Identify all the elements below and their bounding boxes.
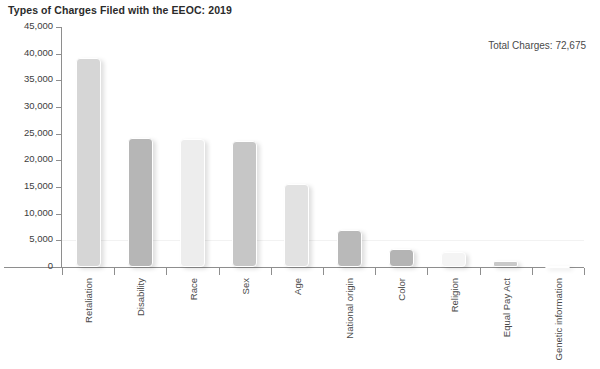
x-label-sex: Sex <box>241 278 252 294</box>
x-tick-mark <box>271 268 272 275</box>
x-label-disability: Disability <box>136 278 147 316</box>
y-tick-label: 15,000 <box>24 180 53 191</box>
bar-sex[interactable] <box>232 141 257 267</box>
y-tick-mark <box>56 160 62 161</box>
x-label-genetic-information: Genetic information <box>554 278 565 362</box>
bar-race[interactable] <box>180 139 205 267</box>
x-label-age: Age <box>293 278 304 295</box>
x-label-equal-pay-act: Equal Pay Act <box>502 278 513 337</box>
bar-color[interactable] <box>389 249 414 267</box>
y-tick-mark <box>56 54 62 55</box>
y-tick-label: 45,000 <box>24 20 53 31</box>
x-label-retaliation: Retaliation <box>84 278 95 323</box>
y-tick-mark <box>56 134 62 135</box>
x-tick-mark <box>166 268 167 275</box>
y-tick-label: 40,000 <box>24 47 53 58</box>
y-tick-label: 0 <box>48 260 53 271</box>
y-tick-mark <box>56 187 62 188</box>
chart-title: Types of Charges Filed with the EEOC: 20… <box>8 4 232 16</box>
bar-genetic-information[interactable] <box>545 266 570 268</box>
x-tick-mark <box>584 268 585 275</box>
y-tick-label: 30,000 <box>24 100 53 111</box>
bar-religion[interactable] <box>441 252 466 267</box>
bar-age[interactable] <box>284 184 309 267</box>
y-tick-mark <box>56 27 62 28</box>
y-tick-mark <box>56 240 62 241</box>
bar-disability[interactable] <box>128 138 153 267</box>
y-tick-label: 10,000 <box>24 207 53 218</box>
y-tick-mark <box>56 80 62 81</box>
y-tick-label: 20,000 <box>24 153 53 164</box>
x-tick-mark <box>62 268 63 275</box>
bar-national-origin[interactable] <box>337 230 362 267</box>
x-label-color: Color <box>397 278 408 301</box>
y-tick-label: 35,000 <box>24 73 53 84</box>
y-tick-mark <box>56 214 62 215</box>
y-tick-mark <box>56 107 62 108</box>
bar-retaliation[interactable] <box>76 58 101 267</box>
x-tick-mark <box>427 268 428 275</box>
total-charges-annotation: Total Charges: 72,675 <box>488 40 586 51</box>
y-tick-label: 5,000 <box>29 233 53 244</box>
y-axis-line <box>61 27 62 268</box>
x-tick-mark <box>480 268 481 275</box>
x-axis-line <box>4 267 584 268</box>
x-label-religion: Religion <box>450 278 461 312</box>
x-tick-mark <box>114 268 115 275</box>
y-tick-label: 25,000 <box>24 127 53 138</box>
x-tick-mark <box>219 268 220 275</box>
x-tick-mark <box>375 268 376 275</box>
x-tick-mark <box>323 268 324 275</box>
x-label-race: Race <box>189 278 200 300</box>
bar-equal-pay-act[interactable] <box>493 261 518 267</box>
x-label-national-origin: National origin <box>345 278 356 362</box>
x-tick-mark <box>532 268 533 275</box>
